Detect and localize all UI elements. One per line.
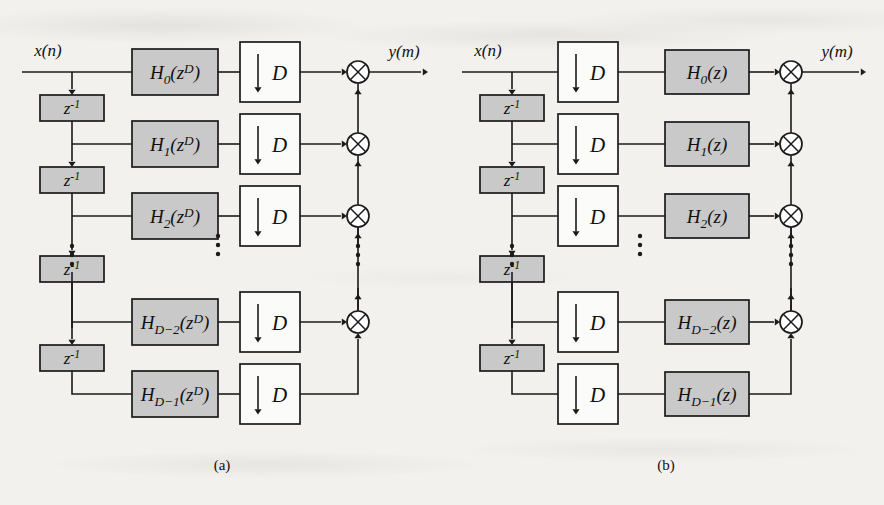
block-diagram-svg: x(n)z-1z-1z-1z-1H0(zD)DH1(zD)DH2(zD)DHD−… (0, 0, 884, 505)
panel-b-adder-bus-arrowhead-1 (787, 161, 794, 166)
panel-b-decimator-block-1[interactable] (558, 114, 618, 174)
panel-b-decimator-block-2[interactable] (558, 186, 618, 246)
panel-b-decimator-factor-label-1: D (589, 133, 605, 157)
panel-a-bottom-feed-arrowhead (354, 333, 361, 338)
panel-b-output-label: y(m) (819, 42, 852, 61)
panel-b-ellipsis-mid-stage (638, 234, 642, 256)
panel-b-adder-bus-gap-arrowhead (787, 294, 794, 299)
ellipsis-dot (70, 253, 74, 257)
figure-container: x(n)z-1z-1z-1z-1H0(zD)DH1(zD)DH2(zD)DHD−… (0, 0, 884, 505)
panel-b-bottom-feed-wire (749, 339, 791, 394)
ellipsis-dot (638, 243, 642, 247)
panel-b-decimator-factor-label-3: D (589, 311, 605, 335)
ellipsis-dot (216, 234, 220, 238)
ellipsis-dot (510, 262, 514, 266)
panel-b-decimator-block-4[interactable] (558, 364, 618, 424)
panel-b-decimator-factor-label-2: D (589, 205, 605, 229)
panel-a-decimator-block-3[interactable] (240, 292, 300, 352)
ellipsis-dot (356, 244, 360, 248)
ellipsis-dot (638, 234, 642, 238)
panel-b-output-arrowhead (861, 68, 866, 75)
caption-b: (b) (657, 457, 675, 474)
panel-a-decimator-factor-label-0: D (271, 61, 287, 85)
panel-b-last-delay-output-wire (512, 371, 558, 394)
ellipsis-dot (356, 253, 360, 257)
panel-a-adder-bus-arrowhead-0 (354, 89, 361, 94)
ellipsis-dot (356, 262, 360, 266)
panel-a-adder-bus-arrowhead-1 (354, 161, 361, 166)
panel-b-ellipsis-delay-bus (510, 244, 514, 266)
panel-a-ellipsis-adder-bus (356, 244, 360, 266)
panel-a-input-label: x(n) (33, 41, 62, 60)
panel-a-last-delay-output-wire (72, 371, 132, 394)
ellipsis-dot (789, 262, 793, 266)
panel-b-decimator-block-3[interactable] (558, 292, 618, 352)
ellipsis-dot (638, 252, 642, 256)
panel-b-adder-bus-arrowhead-0 (787, 89, 794, 94)
panel-a-adder-bus-gap-arrowhead (354, 294, 361, 299)
ellipsis-dot (70, 244, 74, 248)
ellipsis-dot (216, 252, 220, 256)
ellipsis-dot (789, 253, 793, 257)
panel-a-decimator-factor-label-2: D (271, 205, 287, 229)
panel-b-decimator-block-0[interactable] (558, 42, 618, 102)
panel-b-decimator-factor-label-0: D (589, 61, 605, 85)
panel-b-bottom-feed-arrowhead (787, 333, 794, 338)
panel-a-decimator-block-0[interactable] (240, 42, 300, 102)
caption-a: (a) (214, 457, 231, 474)
panel-a-bottom-feed-wire (300, 339, 358, 394)
panel-b-ellipsis-adder-bus (789, 244, 793, 266)
panel-a-ellipsis-delay-bus (70, 244, 74, 266)
panel-a-decimator-block-2[interactable] (240, 186, 300, 246)
panel-a-output-label: y(m) (386, 42, 419, 61)
ellipsis-dot (216, 243, 220, 247)
panel-a-ellipsis-mid-stage (216, 234, 220, 256)
ellipsis-dot (510, 253, 514, 257)
panel-a-output-arrowhead (423, 68, 428, 75)
panel-a-decimator-factor-label-1: D (271, 133, 287, 157)
panel-b-input-label: x(n) (473, 41, 502, 60)
panel-a-decimator-factor-label-4: D (271, 383, 287, 407)
ellipsis-dot (789, 244, 793, 248)
panel-a-decimator-block-1[interactable] (240, 114, 300, 174)
panel-b-decimator-factor-label-4: D (589, 383, 605, 407)
ellipsis-dot (510, 244, 514, 248)
ellipsis-dot (70, 262, 74, 266)
panel-a-decimator-block-4[interactable] (240, 364, 300, 424)
panel-a-decimator-factor-label-3: D (271, 311, 287, 335)
